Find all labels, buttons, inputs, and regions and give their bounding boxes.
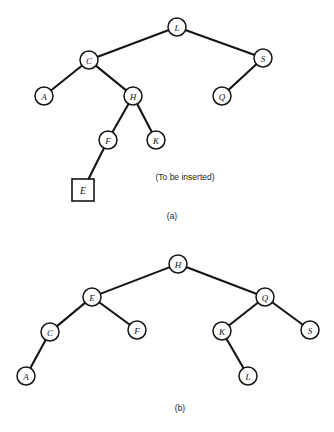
node-label-b-H: H (174, 260, 182, 270)
tree-node-a-C[interactable]: C (80, 51, 98, 69)
tree-edge-b-H-to-b-Q (185, 267, 257, 294)
node-label-b-C: C (47, 328, 54, 338)
node-label-b-L: L (244, 372, 250, 382)
tree-node-a-K[interactable]: K (147, 131, 165, 149)
tree-edge-a-H-to-a-F (112, 103, 129, 133)
tree-node-b-F[interactable]: F (128, 321, 146, 339)
tree-edge-a-C-to-a-H (95, 65, 127, 91)
tree-node-a-L[interactable]: L (168, 18, 186, 36)
tree-panel-b: HEQCFKSAL(b) (17, 255, 319, 413)
node-label-a-F: F (104, 136, 111, 146)
tree-node-b-K[interactable]: K (213, 322, 231, 340)
tree-node-a-Q[interactable]: Q (213, 87, 231, 105)
tree-edge-a-L-to-a-C (96, 30, 169, 57)
tree-edge-b-E-to-b-C (56, 302, 86, 327)
tree-node-b-E[interactable]: E (83, 288, 101, 306)
tree-node-b-C[interactable]: C (41, 323, 59, 341)
tree-edge-a-H-to-a-K (137, 103, 153, 133)
node-label-a-E: E (79, 186, 86, 196)
node-label-a-S: S (261, 54, 266, 64)
tree-node-a-E[interactable]: E (72, 179, 94, 201)
binary-tree-figure: LCSAHQFKE(To be inserted)(a)HEQCFKSAL(b) (0, 0, 334, 432)
node-label-b-E: E (88, 293, 95, 303)
tree-edge-b-H-to-b-E (99, 267, 170, 294)
panel-label-b: (b) (175, 403, 186, 413)
tree-node-b-A[interactable]: A (17, 367, 35, 385)
tree-edge-a-L-to-a-S (185, 30, 256, 56)
tree-edge-a-S-to-a-Q (228, 63, 257, 90)
node-label-b-F: F (133, 326, 140, 336)
edge-group-a (50, 30, 257, 181)
tree-node-b-Q[interactable]: Q (256, 288, 274, 306)
tree-edge-b-E-to-b-F (98, 302, 130, 326)
tree-node-a-A[interactable]: A (35, 87, 53, 105)
tree-edge-b-Q-to-b-K (228, 302, 258, 326)
node-label-b-A: A (22, 372, 29, 382)
tree-edge-a-C-to-a-A (50, 65, 83, 91)
figure-canvas: LCSAHQFKE(To be inserted)(a)HEQCFKSAL(b) (0, 0, 334, 432)
tree-node-b-L[interactable]: L (239, 367, 257, 385)
node-label-b-K: K (218, 327, 226, 337)
node-label-a-L: L (173, 23, 179, 33)
node-label-b-S: S (308, 326, 313, 336)
tree-node-a-F[interactable]: F (99, 131, 117, 149)
tree-edge-b-C-to-b-A (30, 339, 46, 369)
edge-group-b (30, 267, 304, 369)
tree-edge-b-K-to-b-L (226, 338, 244, 369)
node-label-a-K: K (152, 136, 160, 146)
annotation-to-be-inserted: (To be inserted) (155, 172, 214, 182)
tree-panel-a: LCSAHQFKE(To be inserted)(a) (35, 18, 272, 221)
node-label-b-Q: Q (262, 293, 269, 303)
tree-node-a-S[interactable]: S (254, 49, 272, 67)
tree-node-a-H[interactable]: H (124, 87, 142, 105)
tree-edge-b-Q-to-b-S (271, 302, 303, 326)
tree-node-b-H[interactable]: H (169, 255, 187, 273)
node-label-a-A: A (40, 92, 47, 102)
tree-node-b-S[interactable]: S (301, 321, 319, 339)
panel-label-a: (a) (167, 211, 178, 221)
node-label-a-H: H (129, 92, 137, 102)
node-label-a-C: C (86, 56, 93, 66)
tree-edge-a-F-to-a-E (87, 147, 104, 181)
node-label-a-Q: Q (219, 92, 226, 102)
